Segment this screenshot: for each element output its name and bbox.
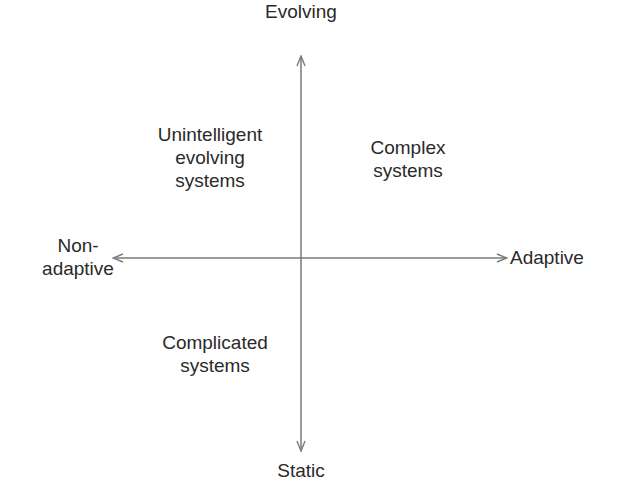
quadrant-label-unintelligent-evolving-systems: Unintelligent evolving systems xyxy=(130,123,290,192)
axis-label-non-adaptive: Non- adaptive xyxy=(30,234,126,280)
axis-label-adaptive: Adaptive xyxy=(510,246,610,269)
quadrant-label-complicated-systems: Complicated systems xyxy=(140,331,290,377)
quadrant-label-complex-systems: Complex systems xyxy=(348,136,468,182)
axis-label-static: Static xyxy=(251,459,351,482)
axis-label-evolving: Evolving xyxy=(251,0,351,23)
quadrant-diagram: Evolving Static Non- adaptive Adaptive U… xyxy=(0,0,624,499)
